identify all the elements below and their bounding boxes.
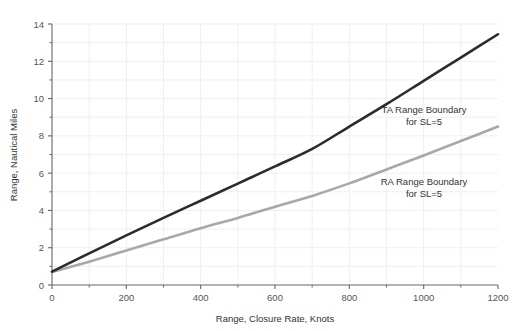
chart-background xyxy=(0,0,524,331)
x-axis-title: Range, Closure Rate, Knots xyxy=(216,313,335,324)
x-tick-label: 1200 xyxy=(487,292,508,303)
y-tick-label: 10 xyxy=(33,93,44,104)
x-tick-label: 800 xyxy=(341,292,357,303)
y-tick-label: 14 xyxy=(33,19,44,30)
y-tick-label: 6 xyxy=(39,168,44,179)
x-tick-label: 400 xyxy=(193,292,209,303)
y-tick-label: 0 xyxy=(39,280,44,291)
y-tick-label: 4 xyxy=(39,205,44,216)
ta-range-boundary-annotation-line2: for SL=5 xyxy=(406,116,442,127)
ra-range-boundary-annotation-line1: RA Range Boundary xyxy=(381,176,468,187)
y-tick-label: 12 xyxy=(33,56,44,67)
range-boundary-chart: 02468101214020040060080010001200 Range, … xyxy=(0,0,524,331)
x-tick-label: 1000 xyxy=(413,292,434,303)
chart-page: 02468101214020040060080010001200 Range, … xyxy=(0,0,524,331)
x-tick-label: 600 xyxy=(267,292,283,303)
y-axis-title: Range, Nautical Miles xyxy=(8,109,19,202)
x-tick-label: 200 xyxy=(118,292,134,303)
ta-range-boundary-annotation-line1: TA Range Boundary xyxy=(382,104,467,115)
x-tick-label: 0 xyxy=(49,292,54,303)
ra-range-boundary-annotation-line2: for SL=5 xyxy=(406,188,442,199)
y-tick-label: 8 xyxy=(39,130,44,141)
y-tick-label: 2 xyxy=(39,242,44,253)
